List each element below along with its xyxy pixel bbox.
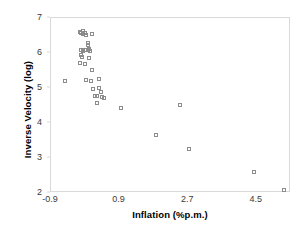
- data-point: [119, 106, 123, 110]
- y-tick-label: 7: [37, 13, 42, 22]
- plot-area: [50, 17, 290, 192]
- data-point: [95, 101, 99, 105]
- data-point: [95, 94, 99, 98]
- data-point: [99, 90, 103, 94]
- y-tick-label: 6: [37, 48, 42, 57]
- data-point: [88, 49, 92, 53]
- data-point: [84, 33, 88, 37]
- data-point: [89, 79, 93, 83]
- data-point: [178, 103, 182, 107]
- data-point: [63, 79, 67, 83]
- data-point: [90, 68, 94, 72]
- x-tick-label: 4.5: [249, 195, 262, 204]
- y-tick-label: 3: [37, 153, 42, 162]
- y-tick-label: 4: [37, 118, 42, 127]
- x-tick-label: 2.7: [181, 195, 194, 204]
- x-axis-title: Inflation (%p.m.): [50, 209, 290, 220]
- data-point: [187, 147, 191, 151]
- x-tick-label: 0.9: [112, 195, 125, 204]
- scatter-chart-figure: 234567 Inverse Velocity (log) -0.90.92.7…: [0, 0, 302, 236]
- data-point: [282, 188, 286, 192]
- data-point: [80, 55, 84, 59]
- data-point: [83, 62, 87, 66]
- data-point: [91, 87, 95, 91]
- data-point: [90, 32, 94, 36]
- data-point: [154, 133, 158, 137]
- y-tick-label: 5: [37, 83, 42, 92]
- x-axis: -0.90.92.74.5: [0, 194, 302, 210]
- data-point: [102, 96, 106, 100]
- data-point: [252, 170, 256, 174]
- data-point: [84, 78, 88, 82]
- data-point: [87, 56, 91, 60]
- y-axis-title: Inverse Velocity (log): [22, 30, 33, 190]
- x-tick-label: -0.9: [42, 195, 58, 204]
- data-point: [97, 77, 101, 81]
- data-point: [78, 61, 82, 65]
